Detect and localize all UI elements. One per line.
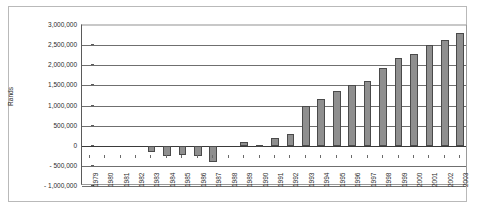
- bar-series: [82, 25, 466, 184]
- bar: [364, 81, 372, 145]
- x-axis-tick-label: 1993: [308, 173, 315, 187]
- y-axis-tick-label: 500,000: [54, 121, 78, 128]
- x-axis-tick-label: 1992: [292, 173, 299, 187]
- bar: [209, 146, 217, 162]
- x-axis-tick-label: 1985: [184, 173, 191, 187]
- x-axis-tick-labels: 1979198019811982198319841985198619871988…: [81, 185, 467, 211]
- x-axis-tick-mark: [398, 155, 399, 158]
- y-axis-tick-label: - 1,000,000: [44, 182, 77, 189]
- bar: [287, 134, 295, 146]
- bar: [256, 145, 264, 147]
- x-axis-tick-mark: [428, 155, 429, 158]
- y-axis-tick-label: - 500,000: [50, 161, 77, 168]
- y-axis-tick-labels: 3,000,0002,500,0002,000,0001,500,0001,00…: [23, 24, 77, 185]
- bar: [379, 68, 387, 146]
- x-axis-tick-label: 1986: [200, 173, 207, 187]
- x-axis-tick-label: 1988: [231, 173, 238, 187]
- x-axis-tick-label: 1999: [401, 173, 408, 187]
- x-axis-tick-mark: [212, 155, 213, 158]
- x-axis-tick-label: 1998: [385, 173, 392, 187]
- x-axis-tick-label: 1981: [123, 173, 130, 187]
- x-axis-tick-label: 2001: [431, 173, 438, 187]
- bar: [333, 91, 341, 145]
- x-axis-tick-label: 1996: [354, 173, 361, 187]
- bar: [456, 33, 464, 146]
- bar: [410, 54, 418, 146]
- bar: [441, 40, 449, 145]
- bar: [271, 138, 279, 146]
- x-axis-tick-mark: [150, 155, 151, 158]
- x-axis-tick-mark: [228, 155, 229, 158]
- y-axis-title: Rands: [7, 87, 14, 106]
- x-axis-tick-mark: [351, 155, 352, 158]
- x-axis-tick-mark: [89, 155, 90, 158]
- x-axis-tick-mark: [289, 155, 290, 158]
- x-axis-tick-mark: [181, 155, 182, 158]
- bar: [348, 85, 356, 145]
- x-axis-tick-mark: [135, 155, 136, 158]
- x-axis-tick-label: 2000: [416, 173, 423, 187]
- bar: [426, 45, 434, 146]
- x-axis-tick-mark: [104, 155, 105, 158]
- x-axis-tick-label: 1983: [153, 173, 160, 187]
- x-axis-tick-mark: [166, 155, 167, 158]
- y-axis-tick-label: 2,500,000: [48, 41, 77, 48]
- bar: [302, 106, 310, 146]
- x-axis-tick-label: 1980: [107, 173, 114, 187]
- bar: [240, 142, 248, 146]
- y-axis-tick-label: 2,000,000: [48, 61, 77, 68]
- x-axis-tick-label: 2002: [447, 173, 454, 187]
- x-axis-tick-label: 1984: [169, 173, 176, 187]
- x-axis-tick-mark: [413, 155, 414, 158]
- bar: [148, 146, 156, 152]
- x-axis-tick-label: 1987: [215, 173, 222, 187]
- x-axis-tick-mark: [336, 155, 337, 158]
- x-axis-tick-label: 1991: [277, 173, 284, 187]
- y-axis-tick-label: 0: [73, 141, 77, 148]
- x-axis-tick-label: 1997: [370, 173, 377, 187]
- x-axis-tick-label: 1989: [246, 173, 253, 187]
- x-axis-tick-mark: [274, 155, 275, 158]
- x-axis-tick-mark: [259, 155, 260, 158]
- x-axis-tick-mark: [382, 155, 383, 158]
- x-axis-tick-mark: [459, 155, 460, 158]
- y-axis-tick-label: 3,000,000: [48, 21, 77, 28]
- bar: [317, 99, 325, 146]
- bar: [194, 146, 202, 156]
- y-axis-tick-label: 1,000,000: [48, 101, 77, 108]
- x-axis-tick-mark: [320, 155, 321, 158]
- chart-frame: 3,000,0002,500,0002,000,0001,500,0001,00…: [8, 6, 467, 202]
- plot-area: [81, 24, 467, 185]
- bar: [163, 146, 171, 156]
- x-axis-tick-mark: [444, 155, 445, 158]
- x-axis-tick-mark: [243, 155, 244, 158]
- bar: [179, 146, 187, 155]
- x-axis-tick-label: 1994: [323, 173, 330, 187]
- x-axis-tick-mark: [120, 155, 121, 158]
- x-axis-tick-label: 1990: [262, 173, 269, 187]
- x-axis-tick-label: 2003: [462, 173, 469, 187]
- x-axis-tick-label: 1982: [138, 173, 145, 187]
- x-axis-tick-label: 1995: [339, 173, 346, 187]
- x-axis-tick-mark: [367, 155, 368, 158]
- x-axis-tick-label: 1979: [92, 173, 99, 187]
- chart-screenshot: 3,000,0002,500,0002,000,0001,500,0001,00…: [0, 0, 477, 211]
- x-axis-tick-mark: [305, 155, 306, 158]
- x-axis-tick-mark: [197, 155, 198, 158]
- bar: [395, 58, 403, 146]
- y-axis-tick-label: 1,500,000: [48, 81, 77, 88]
